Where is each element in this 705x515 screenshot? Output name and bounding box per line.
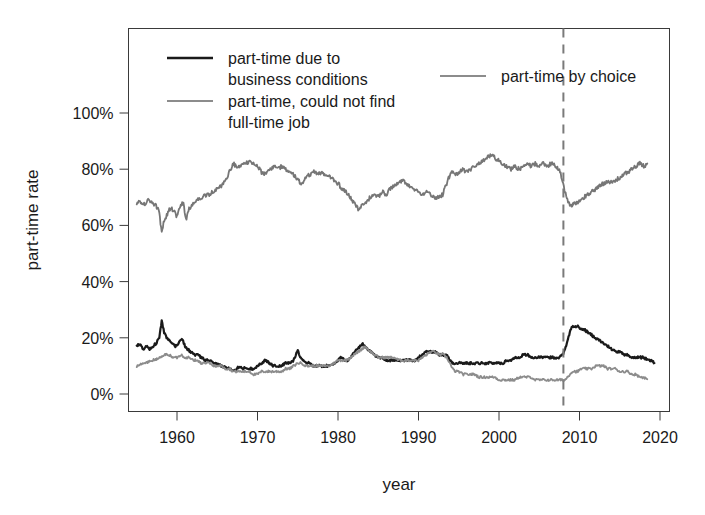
legend-label-business-conditions-line1: part-time due to (228, 50, 340, 67)
y-tick-label: 100% (73, 105, 114, 122)
chart-legend: part-time due to business conditions par… (167, 50, 636, 131)
series-layer (137, 154, 655, 381)
legend-label-could-not-find-line2: full-time job (228, 114, 310, 131)
y-tick-label: 20% (81, 330, 113, 347)
series-line (137, 320, 655, 370)
series-line (137, 154, 648, 231)
legend-label-business-conditions-line2: business conditions (228, 71, 368, 88)
y-axis: 0%20%40%60%80%100% (73, 105, 129, 403)
plot-frame (129, 29, 670, 412)
y-tick-label: 0% (90, 386, 113, 403)
x-tick-label: 2010 (562, 429, 598, 446)
y-axis-title: part-time rate (23, 169, 42, 270)
legend-label-could-not-find-line1: part-time, could not find (228, 93, 395, 110)
part-time-rate-line-chart: 0%20%40%60%80%100% 196019701980199020002… (0, 0, 705, 515)
x-tick-label: 1970 (240, 429, 276, 446)
x-tick-label: 1990 (401, 429, 437, 446)
x-tick-label: 2020 (642, 429, 678, 446)
x-tick-label: 1980 (320, 429, 356, 446)
x-tick-label: 2000 (481, 429, 517, 446)
x-axis: 1960197019801990200020102020 (159, 412, 678, 446)
x-tick-label: 1960 (159, 429, 195, 446)
y-tick-label: 80% (81, 161, 113, 178)
legend-label-by-choice: part-time by choice (501, 68, 636, 85)
x-axis-title: year (382, 475, 415, 494)
chart-figure: 0%20%40%60%80%100% 196019701980199020002… (0, 0, 705, 515)
y-tick-label: 40% (81, 274, 113, 291)
y-tick-label: 60% (81, 217, 113, 234)
